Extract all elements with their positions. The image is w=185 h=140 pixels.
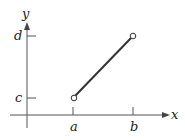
line-segment bbox=[75, 38, 131, 96]
y-axis-arrow-icon bbox=[24, 22, 30, 30]
y-tick-label-d: d bbox=[14, 28, 22, 43]
x-tick-label-a: a bbox=[70, 119, 78, 134]
y-axis-label: y bbox=[21, 6, 30, 21]
y-axis bbox=[24, 22, 30, 128]
open-endpoint-end-icon bbox=[130, 33, 136, 39]
x-axis-label: x bbox=[171, 107, 179, 122]
y-tick-label-c: c bbox=[15, 90, 23, 105]
x-axis bbox=[10, 112, 170, 118]
open-endpoint-start-icon bbox=[71, 95, 77, 101]
x-axis-arrow-icon bbox=[162, 112, 170, 118]
x-tick-label-b: b bbox=[130, 119, 138, 134]
diagram-canvas: x y d c a b bbox=[0, 0, 185, 140]
